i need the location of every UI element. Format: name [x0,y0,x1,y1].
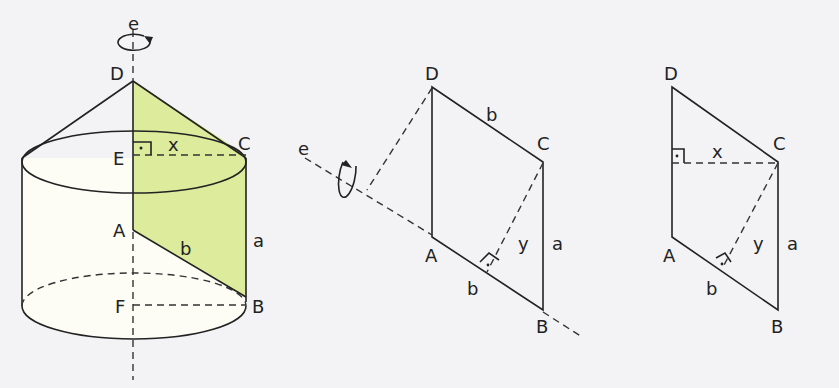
right-angle-dot-x [676,155,679,158]
parallelogram-abcd [672,87,778,310]
figure-parallelogram-rotation: e D b C A y a b B [298,63,582,337]
label-a-length: a [552,233,563,254]
label-d: D [425,63,439,84]
right-angle-dot-y [721,263,724,266]
label-b-point: B [536,316,548,337]
axis-e-left [305,158,432,235]
label-a-point: A [113,220,126,241]
label-e-point: E [113,148,124,169]
label-f: F [115,296,125,317]
rotation-arrowhead-icon [144,36,153,44]
label-y: y [753,233,764,254]
label-a-point: A [425,245,438,266]
label-c: C [537,133,550,154]
label-y: y [518,233,529,254]
label-a-length: a [253,230,264,251]
figure-parallelogram-heights: D x C A y a b B [663,63,798,337]
label-a-point: A [663,245,676,266]
label-d: D [664,63,678,84]
right-angle-dot [140,147,143,150]
height-y [487,163,543,272]
rotation-arrowhead-icon [341,160,352,168]
label-b: b [180,238,191,259]
height-y [723,163,778,267]
right-angle-marker-y [716,253,731,262]
label-b-bottom: b [467,278,478,299]
label-e: e [128,13,139,34]
label-c: C [773,133,786,154]
label-b-point: B [252,296,264,317]
perpendicular-from-d [367,88,432,190]
label-a-length: a [787,233,798,254]
right-angle-dot [487,264,490,267]
label-d: D [110,63,124,84]
label-b: b [706,278,717,299]
label-x: x [712,141,723,162]
axis-e-right [543,312,582,337]
label-c: C [238,133,251,154]
label-e: e [298,138,309,159]
label-b-point: B [771,316,783,337]
diagram-canvas: e D C E x A b a F B e D b C A y a b B [0,0,839,388]
label-b-top: b [486,104,497,125]
label-x: x [168,134,179,155]
figure-cylinder: e D C E x A b a F B [22,13,264,380]
